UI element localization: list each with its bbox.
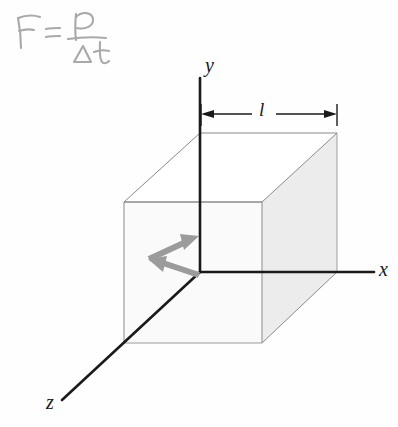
formula-equals-sign bbox=[46, 28, 60, 29]
z-axis-label: z bbox=[46, 392, 54, 412]
formula-fraction-bar bbox=[68, 37, 106, 39]
formula-letter-t bbox=[100, 42, 109, 63]
edge-length-label: l bbox=[259, 100, 264, 119]
physics-figure: y x z l bbox=[0, 0, 398, 427]
x-axis-label: x bbox=[379, 259, 388, 279]
y-axis-label: y bbox=[205, 55, 214, 75]
dimension-arrowhead-right bbox=[324, 110, 337, 118]
dimension-line-group bbox=[201, 104, 337, 126]
dimension-arrowhead-left bbox=[201, 110, 214, 118]
handwritten-formula bbox=[14, 6, 144, 66]
formula-letter-f bbox=[18, 18, 21, 48]
formula-delta bbox=[74, 46, 91, 62]
